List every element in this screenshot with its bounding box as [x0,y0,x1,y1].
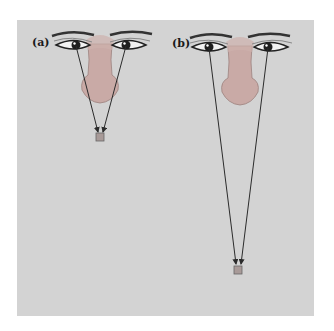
right-eye-icon [252,40,292,51]
vergence-diagram: (a) (b) [0,0,334,331]
panel-a: (a) [32,32,152,141]
left-eyebrow-icon [52,32,94,36]
panel-a-label: (a) [32,36,50,49]
left-eye-icon [54,38,92,49]
near-target-square [96,133,104,141]
right-eyebrow-icon [248,34,290,37]
panel-b: (b) [172,34,292,274]
far-target-square [234,266,242,274]
right-eye-icon [110,38,150,49]
panel-b-label: (b) [172,37,190,50]
left-eyebrow-icon [190,34,232,38]
nose-icon [222,46,259,105]
right-eyebrow-icon [110,32,152,35]
